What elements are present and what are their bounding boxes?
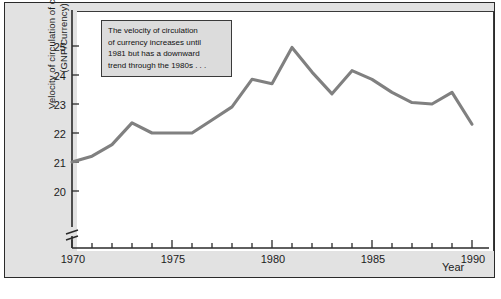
x-tick-label-1980: 1980 [251, 253, 295, 265]
annotation-line-4: trend through the 1980s . . . [108, 60, 226, 72]
y-tick-label-23: 23 [42, 99, 66, 111]
annotation-line-3: 1981 but has a downward [108, 48, 226, 60]
annotation-line-1: The velocity of circulation [108, 25, 226, 37]
annotation-line-2: of currency increases until [108, 37, 226, 49]
x-axis-title: Year [442, 261, 464, 273]
chart-panel: Velocity of circulation of currency (GNP… [4, 2, 495, 278]
x-tick-label-1975: 1975 [151, 253, 195, 265]
y-axis-title-line-2: (GNP/Currency) [58, 3, 70, 73]
y-tick-label-21: 21 [42, 157, 66, 169]
chart-figure: Velocity of circulation of currency (GNP… [0, 0, 501, 299]
y-axis-title-line-1: Velocity of circulation of currency [46, 0, 58, 109]
x-tick-label-1985: 1985 [351, 253, 395, 265]
annotation-callout: The velocity of circulation of currency … [101, 20, 232, 77]
y-tick-label-20: 20 [42, 186, 66, 198]
y-tick-label-24: 24 [42, 70, 66, 82]
y-tick-label-22: 22 [42, 128, 66, 140]
y-tick-label-25: 25 [42, 41, 66, 53]
x-tick-label-1970: 1970 [51, 253, 95, 265]
